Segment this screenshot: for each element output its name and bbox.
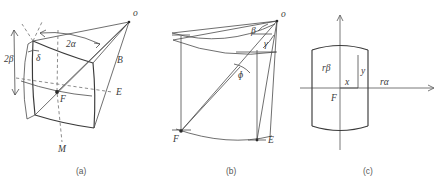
apex-point-o (128, 21, 131, 24)
label-x-coord: x (344, 77, 350, 87)
label-apex-o: o (133, 8, 138, 18)
focus-point-F (55, 90, 59, 94)
caption-a: (a) (76, 166, 86, 176)
label-ray-B: B (117, 55, 123, 65)
label-beta-b: β (250, 26, 256, 36)
label-axis-M: M (57, 144, 67, 154)
label-edge-E-a: E (115, 87, 122, 97)
label-focus-F-b: F (172, 134, 179, 144)
label-apex-o-b: o (281, 9, 286, 19)
caption-c: (c) (363, 166, 373, 176)
label-edge-E-b: E (267, 135, 274, 145)
label-focus-F-c: F (330, 93, 337, 103)
label-focus-F-a: F (59, 94, 66, 104)
panel-b-apex-point (276, 20, 279, 23)
figure-background (0, 0, 445, 189)
label-delta: δ (36, 53, 41, 63)
caption-b: (b) (226, 166, 236, 176)
label-y-coord: y (360, 66, 366, 76)
label-r-beta: rβ (322, 63, 331, 73)
panel-b-focus-point (179, 129, 183, 133)
label-2beta: 2β (4, 54, 14, 64)
label-gamma-b: γ (264, 39, 268, 49)
label-r-alpha: rα (380, 77, 390, 87)
label-2alpha: 2α (66, 39, 77, 49)
panel-b-edge-point (256, 139, 259, 142)
technical-figure: o 2α 2β δ F E B M (0, 0, 445, 189)
label-phi-b: ɸ (238, 70, 243, 80)
